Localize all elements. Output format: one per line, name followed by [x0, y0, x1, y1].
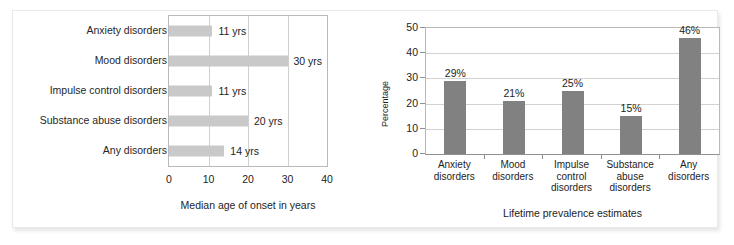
left-chart-gridline: [248, 16, 249, 166]
left-chart-x-tick-label: 30: [282, 173, 294, 185]
right-chart-y-tick-label: 0: [388, 147, 418, 159]
left-chart-bar: [169, 146, 224, 157]
left-chart-value-label: 20 yrs: [254, 115, 283, 127]
left-chart-value-label: 11 yrs: [218, 25, 246, 37]
right-chart-y-tick: [420, 103, 425, 104]
right-chart-x-tick-label-line: disorders: [593, 182, 667, 194]
right-chart-bar: [444, 81, 466, 154]
left-chart-axis-title: Median age of onset in years: [168, 199, 328, 211]
right-chart-axis-title: Lifetime prevalence estimates: [425, 207, 720, 219]
right-chart-y-tick-label: 30: [388, 71, 418, 83]
chart-lifetime-prevalence: Percentage 29%21%25%15%46% 01020304050 A…: [373, 11, 719, 229]
right-chart-y-tick: [420, 77, 425, 78]
left-chart-plot-area: 11 yrs30 yrs11 yrs20 yrs14 yrs: [168, 15, 328, 167]
right-chart-value-label: 25%: [562, 77, 583, 89]
right-chart-y-tick-label: 40: [388, 46, 418, 58]
right-chart-value-label: 15%: [621, 102, 642, 114]
right-chart-bar: [503, 101, 525, 154]
right-chart-x-tick: [542, 155, 543, 159]
left-chart-gridline: [288, 16, 289, 166]
left-chart-value-label: 11 yrs: [218, 85, 246, 97]
right-chart-gridline: [426, 53, 719, 54]
left-chart-bar: [169, 56, 288, 67]
right-chart-y-tick: [420, 153, 425, 154]
right-chart-bar: [620, 116, 642, 154]
right-chart-x-tick: [659, 155, 660, 159]
left-chart-category-label: Impulse control disorders: [19, 84, 167, 96]
left-chart-category-labels: Anxiety disordersMood disordersImpulse c…: [19, 15, 167, 167]
left-chart-bar: [169, 26, 212, 37]
chart-median-age-of-onset: Anxiety disordersMood disordersImpulse c…: [13, 11, 373, 229]
left-chart-category-label: Any disorders: [19, 144, 167, 156]
left-chart-bar: [169, 86, 212, 97]
left-chart-x-tick-label: 40: [321, 173, 333, 185]
right-chart-value-label: 29%: [445, 67, 466, 79]
left-chart-x-tick-label: 20: [242, 173, 254, 185]
right-chart-x-tick: [484, 155, 485, 159]
left-chart-x-tick-label: 0: [166, 173, 172, 185]
left-chart-category-label: Anxiety disorders: [19, 24, 167, 36]
right-chart-x-tick-label-line: Any: [652, 159, 726, 171]
right-chart-y-tick-label: 20: [388, 97, 418, 109]
right-chart-y-tick-label: 50: [388, 21, 418, 33]
left-chart-value-label: 14 yrs: [230, 145, 259, 157]
right-chart-y-tick: [420, 52, 425, 53]
right-chart-y-tick-label: 10: [388, 122, 418, 134]
right-chart-value-label: 21%: [503, 87, 524, 99]
left-chart-value-label: 30 yrs: [294, 55, 323, 67]
right-chart-plot-area: 29%21%25%15%46%: [425, 27, 720, 155]
right-chart-x-tick-label: Anydisorders: [652, 159, 726, 182]
right-chart-bar: [679, 38, 701, 154]
right-chart-bar: [562, 91, 584, 154]
right-chart-y-tick: [420, 27, 425, 28]
left-chart-bar: [169, 116, 248, 127]
right-chart-x-tick: [601, 155, 602, 159]
left-chart-x-tick-label: 10: [203, 173, 215, 185]
left-chart-category-label: Mood disorders: [19, 54, 167, 66]
right-chart-value-label: 46%: [679, 24, 700, 36]
right-chart-y-tick: [420, 128, 425, 129]
left-chart-category-label: Substance abuse disorders: [19, 114, 167, 126]
right-chart-x-tick-label-line: disorders: [652, 171, 726, 183]
figure-card: Anxiety disordersMood disordersImpulse c…: [12, 10, 718, 228]
